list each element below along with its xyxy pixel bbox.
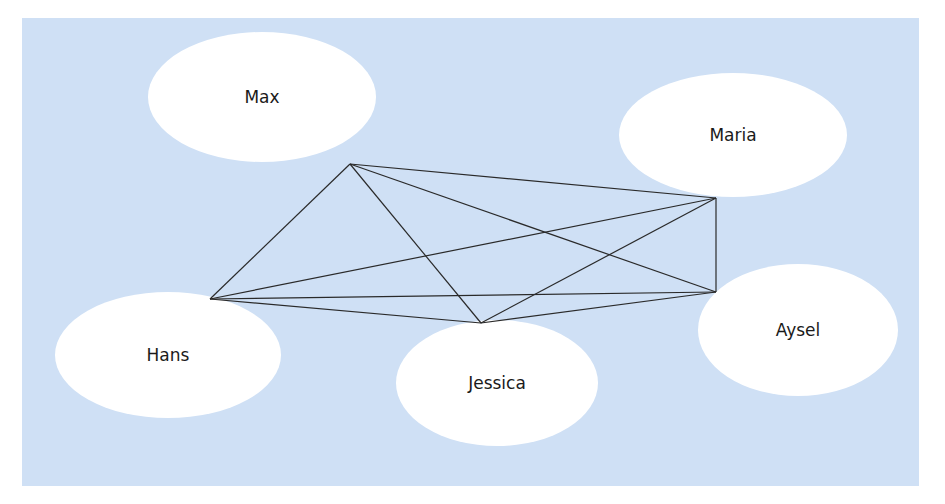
edge-maria-hans: [210, 198, 716, 299]
node-label: Maria: [709, 125, 756, 145]
edge-maria-jessica: [481, 198, 716, 323]
edge-hans-aysel: [210, 292, 716, 299]
edges-layer: [210, 164, 716, 323]
node-maria: Maria: [619, 73, 847, 197]
node-label: Aysel: [776, 320, 821, 340]
node-max: Max: [148, 32, 376, 162]
node-label: Jessica: [467, 373, 526, 393]
nodes-layer: MaxMariaHansJessicaAysel: [55, 32, 898, 446]
edge-max-hans: [210, 164, 350, 299]
network-graph: MaxMariaHansJessicaAysel: [0, 0, 945, 504]
edge-jessica-aysel: [481, 292, 716, 323]
edge-max-jessica: [350, 164, 481, 323]
node-aysel: Aysel: [698, 264, 898, 396]
edge-max-aysel: [350, 164, 716, 292]
node-jessica: Jessica: [396, 320, 598, 446]
node-label: Hans: [147, 345, 190, 365]
node-label: Max: [244, 87, 279, 107]
node-hans: Hans: [55, 292, 281, 418]
